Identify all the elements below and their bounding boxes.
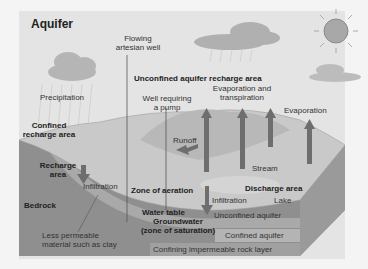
label-water-table: Water table (142, 208, 185, 217)
rain-cloud-icon (194, 22, 280, 50)
label-unconfined-aquifer: Unconfined aquifer (214, 211, 281, 220)
label-discharge-area: Discharge area (245, 184, 302, 193)
cloud-icon (48, 52, 96, 81)
label-infiltration-left: Infiltration (83, 182, 118, 191)
label-evaporation-transpiration: Evaporation and transpiration (204, 84, 280, 102)
label-runoff: Runoff (173, 136, 196, 145)
label-less-permeable-material: Less permeable material such as clay (42, 231, 117, 249)
label-precipitation: Precipitation (40, 93, 84, 102)
label-lake: Lake (274, 196, 291, 205)
label-confined-aquifer: Confined aquifer (225, 231, 284, 240)
cloud-icon (309, 64, 361, 82)
label-evaporation: Evaporation (284, 106, 327, 115)
label-flowing-artesian-well: Flowing artesian well (108, 34, 168, 52)
label-confining-impermeable-rock-layer: Confining impermeable rock layer (153, 245, 272, 254)
sun-icon (314, 9, 358, 53)
label-well-requiring-pump: Well requiring a pump (137, 94, 197, 112)
label-stream: Stream (252, 164, 278, 173)
label-confined-recharge-area: Confined recharge area (20, 121, 78, 139)
label-zone-of-aeration: Zone of aeration (131, 186, 193, 195)
label-bedrock: Bedrock (24, 201, 56, 210)
label-unconfined-recharge-area: Unconfined aquifer recharge area (134, 74, 262, 83)
label-infiltration-right: Infiltration (212, 196, 247, 205)
label-recharge-area: Recharge area (36, 161, 80, 179)
label-groundwater-zone-of-saturation: Groundwater (zone of saturation) (132, 217, 224, 235)
diagram-title: Aquifer (31, 18, 73, 31)
